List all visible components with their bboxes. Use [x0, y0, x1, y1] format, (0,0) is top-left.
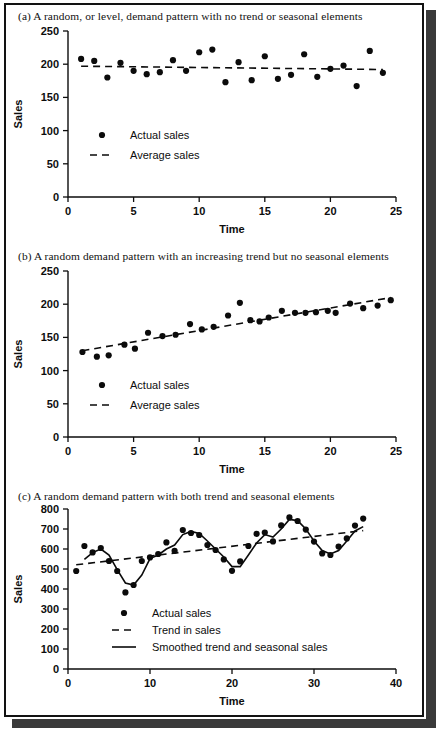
y-tick-label: 50 — [47, 398, 59, 410]
data-point — [209, 46, 215, 52]
data-point — [180, 527, 186, 533]
y-tick-label: 700 — [41, 523, 59, 535]
data-point — [354, 83, 360, 89]
data-point — [222, 79, 228, 85]
data-point — [139, 558, 145, 564]
data-point — [352, 523, 358, 529]
x-axis-title: Time — [219, 223, 244, 235]
data-point — [314, 74, 320, 80]
data-point — [183, 68, 189, 74]
y-tick-label: 400 — [41, 583, 59, 595]
trend-line — [81, 66, 383, 69]
y-tick-label: 200 — [41, 298, 59, 310]
y-tick-label: 100 — [41, 365, 59, 377]
y-tick-label: 50 — [47, 158, 59, 170]
data-point — [301, 51, 307, 57]
legend-dot-marker — [99, 132, 105, 138]
y-tick-label: 150 — [41, 91, 59, 103]
y-tick-label: 0 — [53, 663, 59, 675]
x-tick-label: 5 — [131, 445, 137, 457]
x-axis-title: Time — [219, 463, 244, 475]
data-point — [360, 516, 366, 522]
y-tick-label: 300 — [41, 603, 59, 615]
data-point — [262, 53, 268, 59]
x-tick-label: 0 — [65, 445, 71, 457]
data-point — [170, 57, 176, 63]
data-point — [327, 66, 333, 72]
y-tick-label: 100 — [41, 125, 59, 137]
x-tick-label: 30 — [308, 677, 320, 689]
data-point — [211, 324, 217, 330]
x-tick-label: 20 — [324, 205, 336, 217]
x-tick-label: 10 — [193, 445, 205, 457]
y-tick-label: 200 — [41, 58, 59, 70]
figure-frame: (a) A random, or level, demand pattern w… — [4, 3, 424, 717]
chart-panel-b: (b) A random demand pattern with an incr… — [6, 245, 422, 485]
data-point — [380, 70, 386, 76]
legend-dot-marker — [99, 382, 105, 388]
data-point — [117, 60, 123, 66]
panel-a-plot: 0501001502002500510152025TimeSalesActual… — [6, 21, 422, 243]
data-point — [73, 568, 79, 574]
data-point — [132, 346, 138, 352]
data-point — [340, 62, 346, 68]
legend-label: Smoothed trend and seasonal sales — [152, 641, 328, 653]
x-tick-label: 15 — [259, 445, 271, 457]
data-point — [187, 321, 193, 327]
y-tick-label: 0 — [53, 191, 59, 203]
trend-line — [82, 298, 390, 351]
x-tick-label: 40 — [390, 677, 402, 689]
x-tick-label: 10 — [144, 677, 156, 689]
frame-shadow-bottom — [12, 719, 436, 728]
y-tick-label: 200 — [41, 623, 59, 635]
x-tick-label: 25 — [390, 205, 402, 217]
data-point — [163, 539, 169, 545]
x-tick-label: 20 — [226, 677, 238, 689]
data-point — [367, 48, 373, 54]
panel-c-plot: 0100200300400500600700800010203040TimeSa… — [6, 501, 422, 713]
data-point — [235, 59, 241, 65]
legend-label: Trend in sales — [152, 624, 221, 636]
legend-dot-marker — [121, 610, 127, 616]
frame-shadow-right — [426, 10, 436, 722]
x-tick-label: 10 — [193, 205, 205, 217]
data-point — [360, 305, 366, 311]
y-tick-label: 500 — [41, 563, 59, 575]
y-tick-label: 250 — [41, 25, 59, 37]
data-point — [254, 531, 260, 537]
data-point — [292, 310, 298, 316]
data-point — [313, 309, 319, 315]
x-axis-title: Time — [219, 695, 244, 707]
data-point — [375, 302, 381, 308]
data-point — [145, 330, 151, 336]
x-tick-label: 5 — [131, 205, 137, 217]
data-point — [159, 333, 165, 339]
x-tick-label: 15 — [259, 205, 271, 217]
data-point — [106, 352, 112, 358]
x-tick-label: 0 — [65, 205, 71, 217]
data-point — [249, 77, 255, 83]
y-axis-title: Sales — [12, 100, 24, 129]
data-point — [288, 72, 294, 78]
data-point — [78, 56, 84, 62]
data-point — [131, 68, 137, 74]
data-point — [279, 308, 285, 314]
y-tick-label: 150 — [41, 331, 59, 343]
x-tick-label: 25 — [390, 445, 402, 457]
data-point — [122, 589, 128, 595]
x-tick-label: 0 — [65, 677, 71, 689]
y-tick-label: 0 — [53, 431, 59, 443]
data-point — [157, 69, 163, 75]
y-tick-label: 600 — [41, 543, 59, 555]
data-point — [225, 312, 231, 318]
data-point — [333, 310, 339, 316]
data-point — [81, 543, 87, 549]
data-point — [196, 49, 202, 55]
data-point — [275, 76, 281, 82]
y-tick-label: 250 — [41, 265, 59, 277]
data-point — [94, 354, 100, 360]
legend-label: Average sales — [130, 149, 200, 161]
data-point — [91, 58, 97, 64]
chart-panel-a: (a) A random, or level, demand pattern w… — [6, 5, 422, 245]
y-axis-title: Sales — [12, 340, 24, 369]
